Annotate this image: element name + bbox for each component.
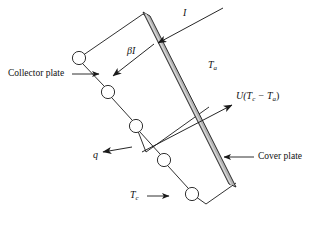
- enclosure-outline: [79, 14, 236, 204]
- incident-radiation-label: I: [183, 8, 186, 18]
- useful-heat-label: q: [93, 150, 98, 160]
- collector-tube: [129, 119, 142, 132]
- diagram-canvas: [0, 0, 313, 229]
- heat-loss-arrow: [142, 105, 232, 152]
- ambient-temperature-label: Ta: [208, 60, 217, 72]
- heat-loss-label: U(Tc − Ta): [236, 91, 279, 103]
- collector-temperature-label: Tc: [130, 190, 139, 202]
- cover-plate: [143, 12, 236, 187]
- heat-loss-suffix: ): [276, 90, 279, 101]
- ambient-temperature-subscript: a: [214, 64, 218, 72]
- useful-heat-arrow: [103, 147, 132, 152]
- collector-tube: [72, 51, 85, 64]
- absorbed-radiation-text: βI: [127, 45, 135, 56]
- cover-plate-band: [143, 12, 236, 187]
- collector-link-4: [168, 166, 188, 188]
- heat-loss-prefix: U(T: [236, 90, 252, 101]
- collector-tube: [157, 153, 170, 166]
- collector-tube: [101, 85, 114, 98]
- collector-temperature-subscript: c: [136, 194, 139, 202]
- absorbed-radiation-label: βI: [127, 46, 135, 56]
- heat-loss-minus: − T: [255, 90, 272, 101]
- cover-plate-label: Cover plate: [258, 152, 302, 162]
- collector-plate-label: Collector plate: [8, 69, 64, 79]
- enclosure-bottom-right-edge: [206, 183, 236, 204]
- collector-link-2: [112, 98, 132, 120]
- incident-radiation-arrow: [158, 8, 223, 43]
- collector-tube: [185, 187, 198, 200]
- collector-link-1: [83, 64, 104, 86]
- solar-collector-diagram: I βI Ta U(Tc − Ta) q Tc Collector plate …: [0, 0, 313, 229]
